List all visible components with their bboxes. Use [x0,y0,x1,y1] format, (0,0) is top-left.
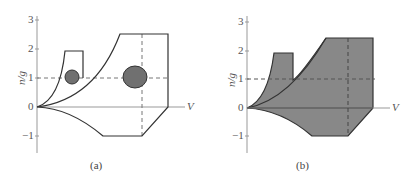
flight-envelope-figure [0,0,408,176]
ytick-3-b: 3 [238,15,244,27]
xlabel-a: V [187,100,194,112]
ytick-neg1-b: −1 [232,129,244,141]
ytick-2-b: 2 [238,44,244,56]
caption-a: (a) [90,159,102,171]
ytick-3-a: 3 [28,13,34,25]
ytick-2-a: 2 [28,42,34,54]
caption-b: (b) [296,159,309,171]
panel-b [245,16,390,153]
panel-a [35,16,185,153]
ytick-0-b: 0 [238,101,244,113]
ytick-0-a: 0 [28,100,34,112]
ytick-1-b: 1 [238,72,244,84]
ytick-neg1-a: −1 [22,129,34,141]
xlabel-b: V [392,101,399,113]
ylabel-a: n/g [15,71,27,85]
ylabel-b: n/g [225,73,237,87]
ytick-1-a: 1 [28,71,34,83]
